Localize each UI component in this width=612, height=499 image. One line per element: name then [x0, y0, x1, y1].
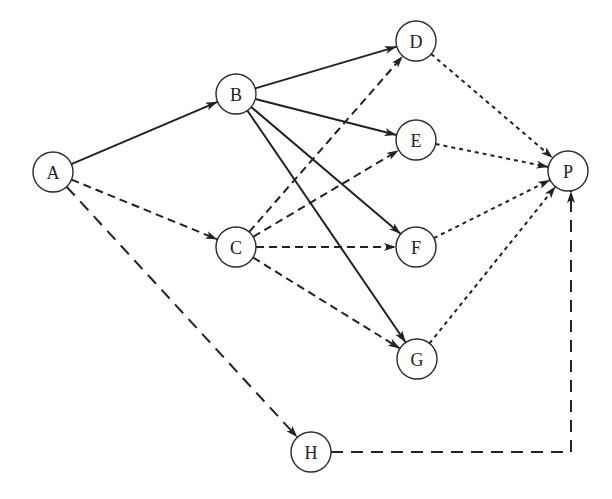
node-label: B [230, 85, 242, 105]
node-c: C [216, 227, 256, 267]
node-h: H [291, 432, 331, 472]
edge-e-to-p [436, 144, 549, 167]
node-label: E [411, 131, 422, 151]
node-g: G [397, 339, 437, 379]
edge-a-to-c [72, 180, 218, 240]
edge-a-to-b [71, 102, 217, 164]
edge-d-to-p [431, 54, 553, 158]
node-label: P [563, 162, 573, 182]
node-a: A [33, 152, 73, 192]
edge-b-to-f [251, 107, 401, 234]
node-label: A [47, 163, 60, 183]
node-b: B [216, 74, 256, 114]
edge-f-to-p [434, 180, 550, 238]
node-p: P [548, 151, 588, 191]
edges-layer [67, 47, 571, 452]
edge-b-to-d [255, 47, 397, 89]
network-diagram: ABCDEFGPH [0, 0, 612, 499]
edge-g-to-p [430, 187, 556, 344]
node-label: C [230, 238, 242, 258]
node-label: G [411, 350, 424, 370]
node-f: F [396, 227, 436, 267]
node-e: E [396, 120, 436, 160]
edge-c-to-e [253, 150, 399, 237]
node-label: F [411, 238, 421, 258]
node-label: H [305, 443, 318, 463]
node-label: D [410, 32, 423, 52]
node-d: D [396, 21, 436, 61]
